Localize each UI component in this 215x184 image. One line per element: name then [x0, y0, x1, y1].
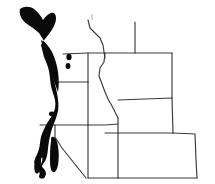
range-patch-south-tip — [39, 173, 45, 178]
range-map-figure — [0, 0, 215, 184]
map-background — [0, 0, 215, 184]
range-patch-oregon-interior — [49, 112, 55, 117]
range-patch-cascade-upper — [66, 54, 71, 60]
range-patch-cascade-lower — [66, 63, 71, 69]
map-canvas — [0, 0, 215, 184]
